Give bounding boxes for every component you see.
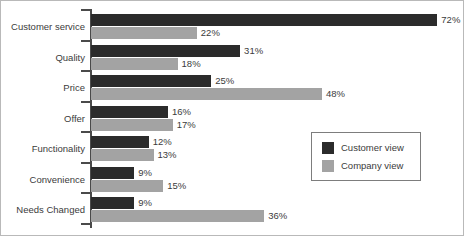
bar-value-label: 9% <box>138 197 152 209</box>
bar-customer-view <box>91 106 168 118</box>
category-label: Customer service <box>1 21 85 32</box>
bar-company-view <box>91 58 178 70</box>
category-row: Needs Changed9%36% <box>1 196 464 227</box>
bar-company-view <box>91 149 154 161</box>
legend-label-company-view: Company view <box>341 160 403 172</box>
category-row: Quality31%18% <box>1 44 464 75</box>
plot-area: Customer service72%22%Quality31%18%Price… <box>1 1 464 236</box>
axis-tick <box>81 101 90 103</box>
category-label: Convenience <box>1 174 85 185</box>
bar-value-label: 12% <box>153 136 172 148</box>
legend-swatch-company-view <box>322 160 334 172</box>
bar-chart: Customer service72%22%Quality31%18%Price… <box>0 0 464 236</box>
axis-tick <box>81 223 90 225</box>
bar-customer-view <box>91 167 134 179</box>
axis-tick <box>81 192 90 194</box>
axis-tick <box>81 40 90 42</box>
category-row: Price25%48% <box>1 74 464 105</box>
bar-value-label: 31% <box>244 45 263 57</box>
legend-swatch-customer-view <box>322 142 334 154</box>
bar-value-label: 72% <box>441 14 460 26</box>
bar-value-label: 36% <box>268 210 287 222</box>
axis-tick <box>81 70 90 72</box>
bar-company-view <box>91 180 163 192</box>
bar-value-label: 22% <box>201 27 220 39</box>
bar-customer-view <box>91 75 211 87</box>
chart-legend: Customer view Company view <box>311 132 421 181</box>
category-row: Customer service72%22% <box>1 13 464 44</box>
bar-value-label: 16% <box>172 106 191 118</box>
bar-company-view <box>91 27 197 39</box>
category-label: Quality <box>1 52 85 63</box>
bar-customer-view <box>91 136 149 148</box>
legend-label-customer-view: Customer view <box>341 142 404 154</box>
category-label: Offer <box>1 113 85 124</box>
axis-tick <box>81 9 90 11</box>
category-row: Offer16%17% <box>1 105 464 136</box>
bar-customer-view <box>91 14 437 26</box>
bar-company-view <box>91 119 173 131</box>
bar-value-label: 15% <box>167 180 186 192</box>
bar-value-label: 25% <box>215 75 234 87</box>
bar-value-label: 9% <box>138 167 152 179</box>
category-label: Price <box>1 82 85 93</box>
bar-customer-view <box>91 45 240 57</box>
axis-tick <box>81 131 90 133</box>
bar-company-view <box>91 88 322 100</box>
bar-customer-view <box>91 197 134 209</box>
axis-tick <box>81 162 90 164</box>
bar-value-label: 13% <box>158 149 177 161</box>
category-label: Needs Changed <box>1 204 85 215</box>
bar-value-label: 17% <box>177 119 196 131</box>
bar-company-view <box>91 210 264 222</box>
category-label: Functionality <box>1 143 85 154</box>
bar-value-label: 48% <box>326 88 345 100</box>
bar-value-label: 18% <box>182 58 201 70</box>
